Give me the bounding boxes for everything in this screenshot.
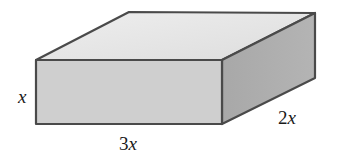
length-label: 3x [119,133,138,154]
depth-label: 2x [278,107,297,128]
prism-diagram: x 3x 2x [0,0,337,160]
height-label: x [17,86,27,107]
prism-front-face [36,60,222,124]
